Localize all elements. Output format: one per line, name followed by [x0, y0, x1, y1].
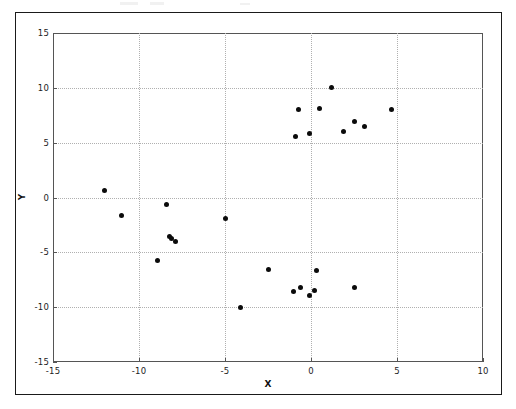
y-axis-tick-label: -15 — [25, 357, 49, 367]
scatter-point — [362, 124, 367, 129]
y-axis-tick — [53, 33, 57, 34]
x-axis-tick-label: -10 — [132, 366, 146, 376]
y-axis-tick — [53, 88, 57, 89]
y-axis-tick — [53, 252, 57, 253]
x-axis-tick — [397, 358, 398, 362]
x-axis-tick-label: -5 — [221, 366, 230, 376]
y-axis-tick-label: 15 — [25, 28, 49, 38]
scatter-point — [155, 258, 160, 263]
y-gridline — [53, 252, 483, 253]
y-axis-label: Y — [17, 194, 27, 201]
x-axis-tick-label: 5 — [394, 366, 400, 376]
scatter-point — [223, 216, 228, 221]
x-axis-tick — [225, 358, 226, 362]
y-axis-tick-label: 0 — [25, 193, 49, 203]
y-gridline — [53, 307, 483, 308]
scatter-point — [352, 119, 357, 124]
scatter-point — [173, 239, 178, 244]
scatter-point — [352, 285, 357, 290]
x-axis-label: X — [265, 379, 272, 389]
y-axis-tick — [53, 362, 57, 363]
y-axis-tick-label: -5 — [25, 247, 49, 257]
scatter-point — [266, 267, 271, 272]
y-gridline — [53, 88, 483, 89]
x-axis-tick — [139, 358, 140, 362]
scatter-point — [164, 202, 169, 207]
scatter-point — [307, 293, 312, 298]
y-gridline — [53, 198, 483, 199]
y-axis-tick — [53, 143, 57, 144]
scatter-plot: -15-10-50510-15-10-5051015 X Y — [0, 0, 516, 409]
x-axis-tick-label: 0 — [308, 366, 314, 376]
scatter-point — [119, 213, 124, 218]
y-axis-tick — [53, 198, 57, 199]
x-axis-tick — [483, 358, 484, 362]
scatter-point — [238, 305, 243, 310]
y-axis-tick-label: 10 — [25, 83, 49, 93]
scatter-point — [293, 134, 298, 139]
x-axis-tick — [311, 358, 312, 362]
y-axis-tick — [53, 307, 57, 308]
y-axis-tick-label: -10 — [25, 302, 49, 312]
y-gridline — [53, 143, 483, 144]
y-axis-tick-label: 5 — [25, 138, 49, 148]
x-axis-tick-label: -15 — [46, 366, 60, 376]
x-axis-tick-label: 10 — [477, 366, 488, 376]
